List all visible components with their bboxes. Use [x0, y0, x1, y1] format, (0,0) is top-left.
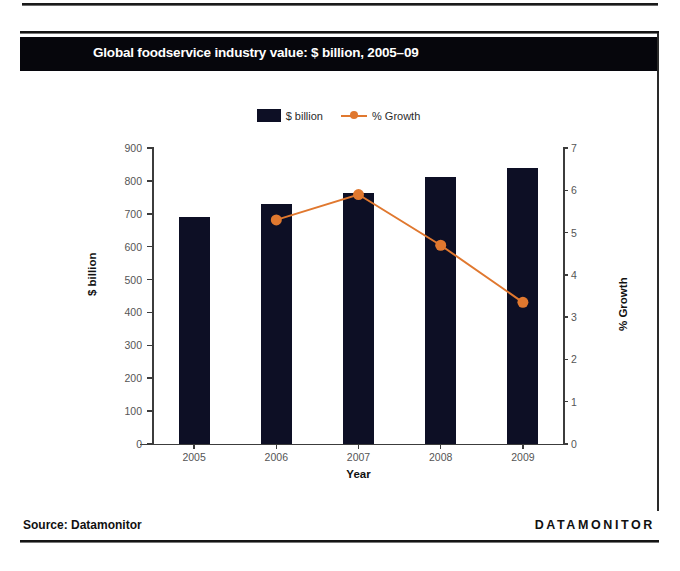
- x-tick-2006: [276, 444, 278, 449]
- x-tick-label-2005: 2005: [182, 451, 205, 463]
- right-tick-label-4: 4: [571, 269, 577, 281]
- bar-2009: [507, 168, 538, 444]
- bar-2008: [425, 177, 456, 444]
- brand-mark: DATAMONITOR: [535, 518, 655, 532]
- x-tick-2008: [440, 444, 442, 449]
- right-tick-label-0: 0: [571, 438, 577, 450]
- x-axis-title: Year: [153, 468, 564, 480]
- left-tick-label-500: 500: [112, 274, 142, 286]
- left-tick-100: [147, 410, 152, 412]
- bar-2007: [343, 193, 374, 444]
- left-tick-label-0: 0: [112, 438, 142, 450]
- bar-2006: [261, 204, 292, 444]
- left-tick-label-900: 900: [112, 142, 142, 154]
- figure-container: Global foodservice industry value: $ bil…: [20, 31, 659, 543]
- right-tick-label-6: 6: [571, 184, 577, 196]
- x-tick-2007: [358, 444, 360, 449]
- left-tick-300: [147, 345, 152, 347]
- page-top-divider: [22, 3, 658, 6]
- x-tick-label-2008: 2008: [429, 451, 452, 463]
- x-tick-2005: [193, 444, 195, 449]
- x-tick-label-2007: 2007: [347, 451, 370, 463]
- left-tick-label-100: 100: [112, 405, 142, 417]
- left-tick-label-600: 600: [112, 241, 142, 253]
- right-tick-label-7: 7: [571, 142, 577, 154]
- y-axis-right-title: % Growth: [617, 277, 629, 331]
- x-tick-2009: [522, 444, 524, 449]
- x-tick-label-2009: 2009: [511, 451, 534, 463]
- left-tick-0: [147, 443, 152, 445]
- left-tick-label-300: 300: [112, 339, 142, 351]
- plot-region: 0100200300400500600700800900 01234567 $ …: [20, 31, 659, 543]
- right-tick-label-3: 3: [571, 311, 577, 323]
- bar-2005: [179, 217, 210, 444]
- left-tick-label-800: 800: [112, 175, 142, 187]
- left-tick-label-400: 400: [112, 306, 142, 318]
- source-note: Source: Datamonitor: [23, 518, 142, 532]
- left-tick-900: [147, 147, 152, 149]
- plot-area: [153, 148, 564, 444]
- left-tick-400: [147, 312, 152, 314]
- right-tick-label-2: 2: [571, 353, 577, 365]
- y-axis-left-title: $ billion: [86, 253, 98, 296]
- left-tick-800: [147, 180, 152, 182]
- left-tick-500: [147, 279, 152, 281]
- figure-bottom-divider: [20, 540, 659, 543]
- right-tick-label-5: 5: [571, 227, 577, 239]
- left-tick-label-200: 200: [112, 372, 142, 384]
- left-tick-200: [147, 377, 152, 379]
- left-tick-label-700: 700: [112, 208, 142, 220]
- left-tick-600: [147, 246, 152, 248]
- x-tick-label-2006: 2006: [265, 451, 288, 463]
- right-tick-label-1: 1: [571, 396, 577, 408]
- left-tick-700: [147, 213, 152, 215]
